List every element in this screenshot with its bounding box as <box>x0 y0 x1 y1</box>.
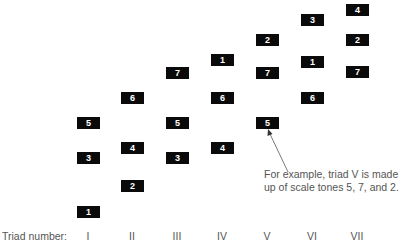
annotation-line-2: up of scale tones 5, 7, and 2. <box>264 181 399 194</box>
annotation-line-1: For example, triad V is made <box>264 168 399 181</box>
triad-II-tone-top: 6 <box>121 92 144 104</box>
triad-III-tone-root: 3 <box>166 152 189 164</box>
numeral-V: V <box>252 230 282 242</box>
triad-IV-tone-root: 4 <box>211 142 234 154</box>
triad-III-tone-top: 7 <box>166 67 189 79</box>
triad-II-tone-mid: 4 <box>121 142 144 154</box>
numeral-IV: IV <box>207 230 237 242</box>
annotation-arrow <box>0 0 402 250</box>
triad-VI-tone-mid: 1 <box>301 56 324 68</box>
numeral-II: II <box>117 230 147 242</box>
triad-III-tone-mid: 5 <box>166 117 189 129</box>
annotation-text: For example, triad V is made up of scale… <box>264 168 399 194</box>
triad-V-tone-mid: 7 <box>256 67 279 79</box>
triad-I-tone-root: 1 <box>77 206 100 218</box>
triad-VII-tone-mid: 2 <box>346 34 369 46</box>
numeral-VII: VII <box>342 230 372 242</box>
triad-number-label: Triad number: <box>2 230 67 242</box>
numeral-VI: VI <box>297 230 327 242</box>
triad-VI-tone-root: 6 <box>301 92 324 104</box>
triad-IV-tone-top: 1 <box>211 54 234 66</box>
triad-VII-tone-top: 4 <box>346 4 369 16</box>
triad-VII-tone-root: 7 <box>346 66 369 78</box>
triad-I-tone-top: 5 <box>77 117 100 129</box>
numeral-I: I <box>73 230 103 242</box>
numeral-III: III <box>162 230 192 242</box>
triad-V-tone-top: 2 <box>256 34 279 46</box>
triad-I-tone-mid: 3 <box>77 152 100 164</box>
triad-V-tone-root: 5 <box>256 117 279 129</box>
triad-IV-tone-mid: 6 <box>211 92 234 104</box>
triad-II-tone-root: 2 <box>121 180 144 192</box>
triad-VI-tone-top: 3 <box>301 14 324 26</box>
